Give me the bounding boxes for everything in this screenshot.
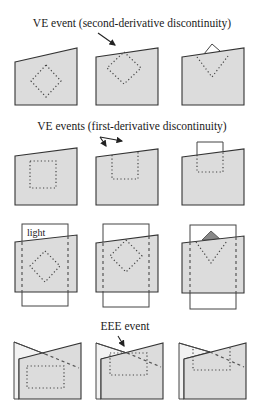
row2-title: VE events (first-derivative discontinuit… [37,120,227,133]
row3-panel2 [96,224,158,307]
row4-panel3 [179,343,246,399]
row1-panel2 [96,48,158,105]
row2-panel3 [182,142,244,205]
row1-title: VE event (second-derivative discontinuit… [33,17,231,30]
row4-panel1 [14,342,81,399]
row2-panel2 [96,149,158,205]
row3-panel3 [182,225,244,309]
diagram-canvas: VE event (second-derivative discontinuit… [0,0,264,418]
arrow-icon [98,33,115,45]
row1-panel3 [182,44,244,105]
arrow-icon [100,137,122,141]
row4-title: EEE event [101,320,151,332]
light-label: light [27,227,46,238]
row2-panel1 [15,148,77,205]
arrow-icon [118,336,124,346]
row3-panel1: light [15,224,77,306]
row1-panel1 [15,48,77,105]
row4-panel2 [96,343,163,399]
